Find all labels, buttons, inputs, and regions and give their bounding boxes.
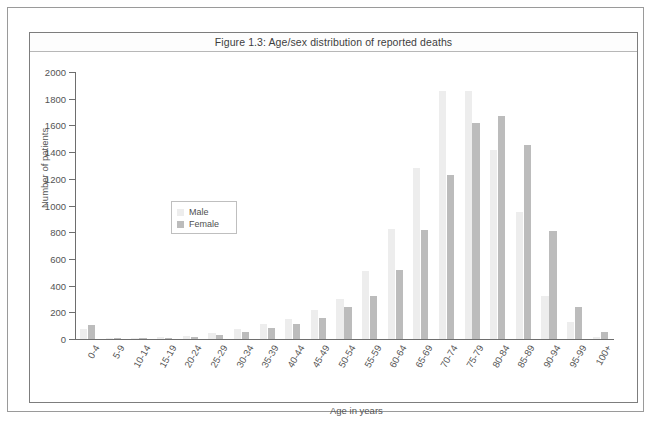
bar-male-45-49 — [311, 310, 318, 339]
bar-female-10-14 — [139, 338, 146, 339]
y-tick-mark — [69, 125, 75, 126]
bar-group — [357, 271, 383, 339]
x-tick-label: 20-24 — [182, 343, 204, 370]
chart-title-band: Figure 1.3: Age/sex distribution of repo… — [30, 33, 637, 52]
x-tick-label: 95-99 — [566, 343, 588, 370]
y-tick-mark — [69, 99, 75, 100]
chart-legend: Male Female — [171, 201, 237, 234]
y-tick-label: 1600 — [45, 120, 66, 131]
bar-male-85-89 — [516, 212, 523, 339]
x-tick-label: 90-94 — [541, 343, 563, 370]
bar-female-80-84 — [498, 116, 505, 339]
bar-male-80-84 — [490, 150, 497, 339]
legend-item-male: Male — [177, 206, 231, 218]
x-tick-label: 70-74 — [438, 343, 460, 370]
bar-male-75-79 — [465, 91, 472, 339]
y-tick-mark — [69, 206, 75, 207]
y-tick-mark — [69, 152, 75, 153]
y-tick-label: 0 — [61, 334, 66, 345]
bar-group — [101, 338, 127, 339]
bar-male-70-74 — [439, 91, 446, 339]
x-tick-label: 75-79 — [464, 343, 486, 370]
x-tick-label: 55-59 — [361, 343, 383, 370]
bar-female-35-39 — [268, 328, 275, 339]
bar-group — [280, 319, 306, 339]
bar-female-85-89 — [524, 145, 531, 339]
bar-group — [203, 333, 229, 339]
bar-group — [126, 338, 152, 339]
x-tick-label: 50-54 — [336, 343, 358, 370]
y-tick-label: 800 — [50, 227, 66, 238]
x-tick-label: 85-89 — [515, 343, 537, 370]
x-tick-label: 15-19 — [157, 343, 179, 370]
x-tick-label: 80-84 — [490, 343, 512, 370]
bar-group — [75, 325, 101, 339]
y-axis-title: Number of patients — [39, 128, 50, 208]
bar-group — [408, 168, 434, 339]
legend-swatch-male — [177, 209, 184, 216]
bar-female-25-29 — [216, 335, 223, 339]
chart-panel: Figure 1.3: Age/sex distribution of repo… — [29, 32, 638, 403]
bar-female-55-59 — [370, 296, 377, 339]
bar-female-5-9 — [114, 338, 121, 339]
plot-area: 0200400600800100012001400160018002000 — [75, 72, 613, 339]
bar-male-60-64 — [388, 229, 395, 339]
y-tick-label: 600 — [50, 253, 66, 264]
x-tick-label: 100+ — [593, 343, 613, 367]
bar-group — [485, 116, 511, 339]
outer-frame: Figure 1.3: Age/sex distribution of repo… — [7, 7, 644, 412]
x-tick-label: 30-34 — [233, 343, 255, 370]
bar-female-100+ — [601, 332, 608, 339]
bar-female-60-64 — [396, 270, 403, 339]
bar-group — [331, 299, 357, 339]
x-tick-label: 0-4 — [85, 343, 101, 360]
bar-male-65-69 — [413, 168, 420, 339]
bar-male-40-44 — [285, 319, 292, 339]
bar-male-100+ — [593, 337, 600, 339]
page-title: Figure 1.3: Age/sex distribution of repo… — [215, 36, 452, 48]
x-tick-label: 25-29 — [208, 343, 230, 370]
x-tick-label: 5-9 — [111, 343, 127, 360]
bar-female-70-74 — [447, 175, 454, 339]
bar-male-55-59 — [362, 271, 369, 339]
bar-group — [562, 307, 588, 339]
legend-label-female: Female — [189, 219, 219, 229]
x-axis-title: Age in years — [330, 405, 383, 416]
y-tick-mark — [69, 286, 75, 287]
chart-page: Figure 1.3: Age/sex distribution of repo… — [0, 0, 653, 421]
bar-female-90-94 — [549, 231, 556, 339]
y-tick-label: 1400 — [45, 147, 66, 158]
y-tick-label: 1000 — [45, 200, 66, 211]
bar-group — [511, 145, 537, 339]
y-tick-label: 1800 — [45, 93, 66, 104]
legend-item-female: Female — [177, 218, 231, 230]
bar-male-95-99 — [567, 322, 574, 339]
y-tick-mark — [69, 179, 75, 180]
x-tick-label: 60-64 — [387, 343, 409, 370]
y-tick-label: 400 — [50, 280, 66, 291]
y-tick-mark — [69, 72, 75, 73]
bar-female-30-34 — [242, 332, 249, 339]
y-tick-mark — [69, 339, 75, 340]
bar-male-25-29 — [208, 333, 215, 339]
bar-female-75-79 — [472, 123, 479, 339]
bar-group — [152, 337, 178, 339]
bar-male-15-19 — [157, 337, 164, 339]
bar-male-0-4 — [80, 329, 87, 339]
bar-male-5-9 — [106, 338, 113, 339]
bar-female-20-24 — [191, 337, 198, 339]
bar-group — [254, 324, 280, 339]
bar-female-15-19 — [165, 338, 172, 339]
bar-male-35-39 — [260, 324, 267, 339]
x-tick-label: 65-69 — [413, 343, 435, 370]
bar-group — [306, 310, 332, 339]
x-axis-line — [75, 339, 614, 340]
legend-label-male: Male — [189, 207, 209, 217]
bar-male-50-54 — [336, 299, 343, 339]
bar-male-30-34 — [234, 329, 241, 339]
bar-female-40-44 — [293, 324, 300, 339]
x-tick-label: 35-39 — [259, 343, 281, 370]
y-tick-mark — [69, 232, 75, 233]
bar-female-50-54 — [344, 307, 351, 339]
bar-male-90-94 — [541, 296, 548, 339]
